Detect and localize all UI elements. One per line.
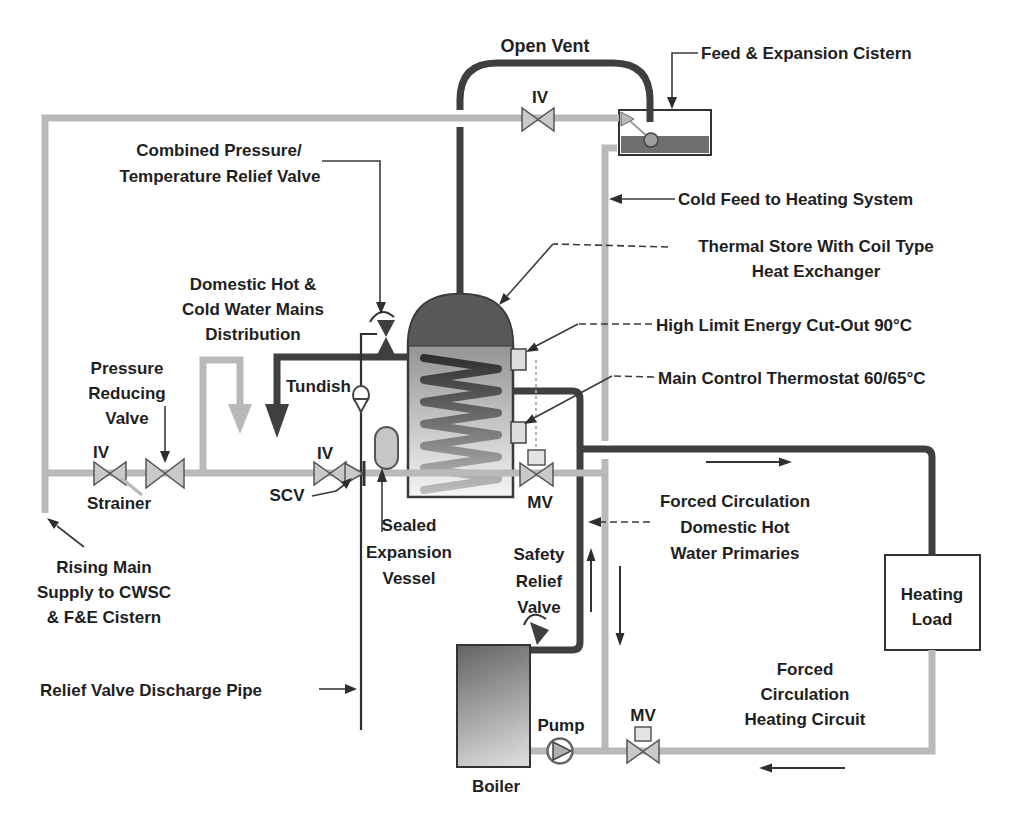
- store-dome: [408, 294, 513, 346]
- leader-feed-cistern: [667, 53, 698, 109]
- mv-heating-body-left: [627, 740, 643, 763]
- leader-thermal-store: [499, 244, 668, 305]
- leader-combined-pt: [322, 161, 386, 314]
- flow-arrow-primaries-up: [587, 548, 596, 612]
- leader-cold-feed: [609, 194, 675, 204]
- leader-discharge-pipe: [319, 684, 357, 694]
- label-feed-cistern: Feed & Expansion Cistern: [701, 44, 912, 63]
- mv-store-body-right: [537, 463, 554, 486]
- label-prv-2: Reducing: [88, 384, 165, 403]
- iv-left-left: [94, 462, 110, 485]
- cold-distribution-arrow: [228, 404, 252, 434]
- thermal-store: [408, 294, 513, 497]
- label-cold-feed: Cold Feed to Heating System: [678, 190, 913, 209]
- label-boiler: Boiler: [472, 777, 521, 796]
- label-domestic-2: Cold Water Mains: [182, 300, 324, 319]
- label-high-limit: High Limit Energy Cut-Out 90°C: [656, 316, 912, 335]
- flow-arrow-coldfeed-down: [616, 566, 625, 646]
- label-iv-left: IV: [93, 443, 110, 462]
- label-srv-3: Valve: [517, 598, 561, 617]
- pressure-reducing-valve: [146, 459, 184, 488]
- boiler-body: [457, 645, 530, 767]
- sealed-expansion-vessel: [375, 427, 398, 469]
- label-forced-dhw-1: Forced Circulation: [660, 492, 810, 511]
- mv-store-actuator: [528, 450, 545, 465]
- isolating-valve-mid: [314, 462, 346, 485]
- safety-relief-valve: [524, 615, 549, 645]
- flow-arrow-return-left: [759, 764, 845, 773]
- pipe-cold-feed-upper: [605, 148, 617, 441]
- pt-valve-bottom: [377, 337, 395, 355]
- iv-top-right: [538, 108, 554, 131]
- high-limit-sensor: [511, 349, 526, 370]
- motorized-valve-store: [520, 450, 553, 486]
- label-iv-top: IV: [532, 88, 549, 107]
- label-forced-dhw-3: Water Primaries: [671, 544, 800, 563]
- diagram-canvas: Open Vent IV Feed & Expansion Cistern Co…: [0, 0, 1009, 819]
- label-mv-heating: MV: [630, 706, 656, 725]
- pipe-relief-elbow: [361, 334, 377, 388]
- tundish: [353, 386, 369, 412]
- prv-right: [165, 459, 184, 488]
- label-thermal-store-2: Heat Exchanger: [752, 262, 881, 281]
- pump: [548, 739, 573, 764]
- float-ball: [644, 133, 658, 147]
- label-forced-heating-3: Heating Circuit: [745, 710, 866, 729]
- label-srv-2: Relief: [516, 572, 563, 591]
- pipe-heating-return: [530, 650, 932, 751]
- main-thermostat-sensor: [511, 422, 526, 443]
- cistern-water: [621, 136, 709, 153]
- iv-top-left: [522, 108, 538, 131]
- isolating-valve-top: [522, 108, 554, 131]
- label-forced-heating-2: Circulation: [761, 685, 850, 704]
- prv-left: [146, 459, 165, 488]
- label-main-control: Main Control Thermostat 60/65°C: [658, 369, 926, 388]
- label-prv-1: Pressure: [91, 359, 164, 378]
- label-rising-2: Supply to CWSC: [37, 583, 171, 602]
- heating-system-diagram: Open Vent IV Feed & Expansion Cistern Co…: [0, 0, 1009, 819]
- label-prv-3: Valve: [105, 409, 149, 428]
- label-open-vent: Open Vent: [500, 36, 589, 56]
- label-discharge-pipe: Relief Valve Discharge Pipe: [40, 681, 262, 700]
- leader-high-limit: [526, 324, 652, 352]
- feed-expansion-cistern: [619, 110, 711, 155]
- label-pump: Pump: [537, 716, 584, 735]
- label-heating-load-2: Load: [912, 610, 953, 629]
- srv-body: [530, 622, 549, 645]
- leader-prv: [160, 406, 170, 463]
- label-iv-mid: IV: [317, 444, 334, 463]
- leader-forced-dhw: [588, 517, 650, 527]
- label-domestic-1: Domestic Hot &: [190, 275, 317, 294]
- label-scv: SCV: [270, 486, 306, 505]
- label-tundish: Tundish: [286, 377, 351, 396]
- label-forced-dhw-2: Domestic Hot: [680, 518, 790, 537]
- label-vessel-3: Vessel: [383, 569, 436, 588]
- label-vessel-2: Expansion: [366, 543, 452, 562]
- hot-distribution-arrow: [265, 404, 289, 438]
- leader-main-control: [524, 376, 654, 424]
- label-rising-1: Rising Main: [56, 558, 151, 577]
- mv-heating-body-right: [643, 740, 659, 763]
- iv-mid-left: [314, 462, 330, 485]
- tundish-funnel: [354, 399, 368, 412]
- label-heating-load-1: Heating: [901, 585, 963, 604]
- label-combined-pt-2: Temperature Relief Valve: [120, 167, 321, 186]
- label-combined-pt-1: Combined Pressure/: [136, 141, 302, 160]
- flow-arrow-heating-flow: [706, 458, 792, 467]
- label-forced-heating-1: Forced: [777, 660, 834, 679]
- mv-heating-actuator: [635, 727, 651, 741]
- pt-valve-top: [377, 320, 395, 337]
- isolating-valve-left: [94, 462, 126, 485]
- motorized-valve-heating: [627, 727, 659, 763]
- mv-store-body-left: [520, 463, 537, 486]
- label-mv-store: MV: [527, 493, 553, 512]
- label-srv-1: Safety: [513, 545, 565, 564]
- leader-rising-main: [47, 518, 84, 547]
- label-strainer: Strainer: [87, 494, 152, 513]
- label-domestic-3: Distribution: [205, 325, 300, 344]
- label-vessel-1: Sealed: [382, 516, 437, 535]
- label-thermal-store-1: Thermal Store With Coil Type: [698, 237, 934, 256]
- strainer-symbol: [121, 478, 142, 495]
- label-rising-3: & F&E Cistern: [47, 608, 161, 627]
